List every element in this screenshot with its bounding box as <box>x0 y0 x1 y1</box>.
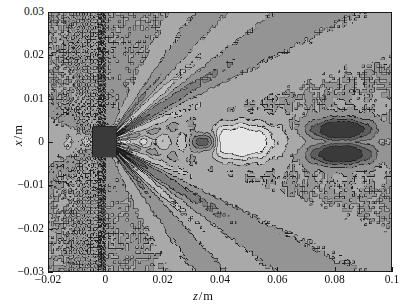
x-tick-label-3: 0.04 <box>190 274 250 286</box>
y-tick-mark-5 <box>48 229 53 230</box>
y-tick-label-0: 0.03 <box>2 6 44 18</box>
figure-root: 0.030.020.010−0.01−0.02−0.03 x/m −0.0200… <box>0 0 406 307</box>
x-tick-label-2: 0.02 <box>133 274 193 286</box>
x-tick-label-5: 0.08 <box>305 274 365 286</box>
y-tick-mark-4 <box>48 185 53 186</box>
x-tick-mark-4 <box>277 267 278 272</box>
x-tick-label-1: 0 <box>75 274 135 286</box>
y-axis-separator: / <box>11 135 25 140</box>
x-tick-mark-3 <box>220 267 221 272</box>
contour-canvas <box>49 13 391 271</box>
y-tick-label-5: −0.02 <box>2 223 44 235</box>
x-axis-title: z/m <box>0 289 406 304</box>
y-axis-unit: m <box>11 125 25 135</box>
y-tick-mark-0 <box>48 12 53 13</box>
x-tick-label-6: 0.1 <box>362 274 406 286</box>
y-tick-mark-1 <box>48 55 53 56</box>
x-tick-mark-1 <box>105 267 106 272</box>
y-axis-variable: x <box>11 140 25 146</box>
x-tick-mark-2 <box>163 267 164 272</box>
contour-plot-area <box>48 12 392 272</box>
y-tick-label-1: 0.02 <box>2 49 44 61</box>
x-tick-label-4: 0.06 <box>247 274 307 286</box>
x-tick-mark-0 <box>48 267 49 272</box>
y-axis-title: x/m <box>11 106 26 166</box>
x-tick-mark-5 <box>335 267 336 272</box>
y-tick-label-2: 0.01 <box>2 93 44 105</box>
y-tick-mark-2 <box>48 99 53 100</box>
y-tick-mark-3 <box>48 142 53 143</box>
x-axis-unit: m <box>203 289 213 303</box>
x-tick-label-0: −0.02 <box>18 274 78 286</box>
x-tick-mark-6 <box>392 267 393 272</box>
y-tick-label-4: −0.01 <box>2 179 44 191</box>
